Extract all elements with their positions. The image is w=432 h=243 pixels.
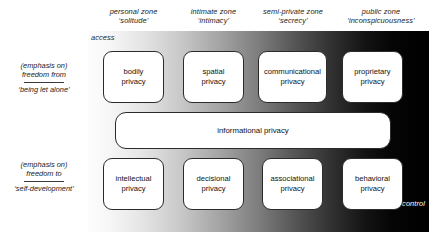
box-communicational-privacy: communicational privacy bbox=[258, 51, 327, 103]
box-label-line2: privacy bbox=[116, 184, 152, 194]
column-header-zone-name: intimate zone bbox=[183, 7, 244, 16]
box-label-line2: privacy bbox=[271, 184, 315, 194]
column-header-personal-zone: personal zone ‘solitude’ bbox=[103, 7, 164, 25]
access-axis-label: access bbox=[91, 33, 115, 42]
box-informational-privacy: informational privacy bbox=[115, 112, 391, 149]
box-label-line1: associational bbox=[271, 174, 315, 184]
column-header-zone-name: public zone bbox=[336, 7, 426, 16]
column-header-zone-name: personal zone bbox=[103, 7, 164, 16]
box-label-line2: privacy bbox=[197, 184, 231, 194]
column-header-zone-quote: ‘intimacy’ bbox=[183, 16, 244, 25]
box-bodily-privacy: bodily privacy bbox=[103, 51, 164, 103]
box-label-line2: privacy bbox=[264, 77, 321, 87]
box-behavioral-privacy: behavioral privacy bbox=[342, 158, 403, 210]
box-proprietary-privacy: proprietary privacy bbox=[342, 51, 403, 103]
privacy-taxonomy-diagram: personal zone ‘solitude’ intimate zone ‘… bbox=[0, 0, 432, 243]
control-axis-label: control bbox=[402, 199, 425, 208]
column-header-public-zone: public zone ‘inconspicuousness’ bbox=[336, 7, 426, 25]
box-label-line2: privacy bbox=[121, 77, 145, 87]
row-label-freedom-to: (emphasis on) freedom to ‘self-developme… bbox=[2, 160, 86, 193]
box-label-line1: proprietary bbox=[354, 67, 390, 77]
box-label-line1: behavioral bbox=[355, 174, 390, 184]
box-label-line1: intellectual bbox=[116, 174, 152, 184]
column-header-zone-name: semi-private zone bbox=[255, 7, 331, 16]
column-header-zone-quote: ‘inconspicuousness’ bbox=[336, 16, 426, 25]
box-decisional-privacy: decisional privacy bbox=[183, 158, 244, 210]
column-header-zone-quote: ‘solitude’ bbox=[103, 16, 164, 25]
box-spatial-privacy: spatial privacy bbox=[183, 51, 244, 103]
informational-privacy-label: informational privacy bbox=[217, 126, 289, 135]
row-label-emphasis: (emphasis on) bbox=[2, 160, 86, 169]
box-label-line1: bodily bbox=[121, 67, 145, 77]
column-header-intimate-zone: intimate zone ‘intimacy’ bbox=[183, 7, 244, 25]
row-label-quote: ‘self-development’ bbox=[2, 184, 86, 193]
box-label-line1: spatial bbox=[201, 67, 225, 77]
row-label-quote: ‘being let alone’ bbox=[2, 85, 86, 94]
box-intellectual-privacy: intellectual privacy bbox=[103, 158, 164, 210]
row-label-freedom: freedom to bbox=[2, 169, 86, 178]
row-label-freedom: freedom from bbox=[2, 70, 86, 79]
box-label-line2: privacy bbox=[355, 184, 390, 194]
column-header-zone-quote: ‘secrecy’ bbox=[255, 16, 331, 25]
row-label-emphasis: (emphasis on) bbox=[2, 61, 86, 70]
box-associational-privacy: associational privacy bbox=[262, 158, 323, 210]
column-header-semi-private-zone: semi-private zone ‘secrecy’ bbox=[255, 7, 331, 25]
box-label-line2: privacy bbox=[354, 77, 390, 87]
box-label-line1: communicational bbox=[264, 67, 321, 77]
box-label-line2: privacy bbox=[201, 77, 225, 87]
row-label-freedom-from: (emphasis on) freedom from ‘being let al… bbox=[2, 61, 86, 94]
box-label-line1: decisional bbox=[197, 174, 231, 184]
row-label-divider bbox=[24, 82, 64, 83]
row-label-divider bbox=[24, 181, 64, 182]
